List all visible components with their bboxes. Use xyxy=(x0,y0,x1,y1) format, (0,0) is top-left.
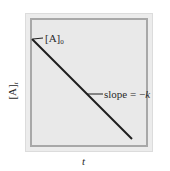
slope-annotation-prefix: slope = − xyxy=(104,88,145,100)
intercept-annotation-sub: 0 xyxy=(60,38,64,46)
plot-svg xyxy=(0,0,170,171)
intercept-annotation: [A]0 xyxy=(45,33,64,48)
x-axis-label: t xyxy=(82,155,85,167)
y-axis-label-main: [A] xyxy=(6,84,18,99)
intercept-annotation-main: [A] xyxy=(45,32,60,44)
y-axis-label-sub: t xyxy=(12,82,20,84)
intercept-leader-line xyxy=(33,38,43,39)
y-axis-label: [A]t xyxy=(6,82,20,99)
slope-annotation: slope = −k xyxy=(104,89,150,100)
slope-annotation-var: k xyxy=(145,88,150,100)
